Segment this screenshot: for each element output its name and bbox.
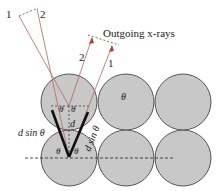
theta-label: θ bbox=[56, 146, 61, 156]
atom-lattice bbox=[41, 74, 211, 186]
path-diff-left-label: d sin θ bbox=[18, 127, 45, 138]
incoming-ray-1-label: 1 bbox=[6, 8, 12, 20]
atom bbox=[98, 74, 154, 130]
bragg-diffraction-diagram: 1 2 Outgoing x-rays 2 1 θ θ θ d d sin θ … bbox=[0, 0, 221, 191]
theta-label: θ bbox=[59, 104, 64, 114]
theta-label: θ bbox=[74, 146, 79, 156]
theta-label: θ bbox=[71, 104, 76, 114]
outgoing-ray-2-label: 2 bbox=[79, 51, 85, 63]
outgoing-title: Outgoing x-rays bbox=[103, 27, 175, 39]
arrowhead-icon bbox=[109, 45, 114, 52]
outgoing-ray-1-label: 1 bbox=[108, 57, 114, 69]
atom bbox=[155, 74, 211, 130]
atom bbox=[41, 74, 97, 130]
theta-label: θ bbox=[121, 91, 126, 102]
atom bbox=[155, 130, 211, 186]
incoming-ray-2-label: 2 bbox=[40, 8, 46, 20]
arrowhead-icon bbox=[89, 37, 94, 44]
